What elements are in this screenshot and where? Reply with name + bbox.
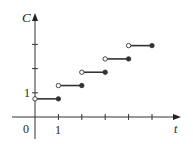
origin-label: 0 xyxy=(23,122,29,136)
closed-endpoint-icon xyxy=(56,97,60,101)
step-function-chart: C t 0 1 1 xyxy=(0,0,193,144)
open-endpoint-icon xyxy=(80,70,84,74)
open-endpoint-icon xyxy=(33,97,37,101)
closed-endpoint-icon xyxy=(126,57,130,61)
y-axis-arrow-icon xyxy=(32,13,38,21)
x-axis-arrow-icon xyxy=(173,114,181,120)
step-segments xyxy=(33,43,154,101)
closed-endpoint-icon xyxy=(150,43,154,47)
closed-endpoint-icon xyxy=(103,70,107,74)
y-tick-label-1: 1 xyxy=(24,86,30,100)
open-endpoint-icon xyxy=(126,43,130,47)
x-tick-label-1: 1 xyxy=(55,123,61,137)
open-endpoint-icon xyxy=(103,57,107,61)
x-axis-label: t xyxy=(174,122,178,136)
y-axis-label: C xyxy=(22,10,31,25)
open-endpoint-icon xyxy=(56,83,60,87)
closed-endpoint-icon xyxy=(80,83,84,87)
